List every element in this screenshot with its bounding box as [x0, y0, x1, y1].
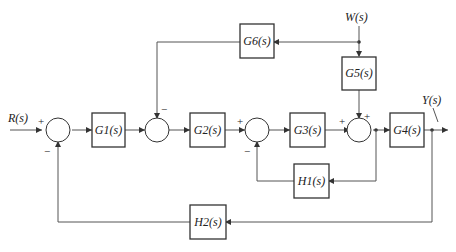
block-diagram: G1(s) G2(s) G3(s) G4(s) G5(s) G6(s) H1(s… [0, 0, 456, 252]
disturbance-label: W(s) [345, 10, 368, 24]
block-g6: G6(s) [240, 24, 274, 58]
svg-text:G4(s): G4(s) [393, 123, 420, 137]
block-g3: G3(s) [290, 113, 325, 147]
sign: + [38, 115, 44, 127]
sign: − [161, 103, 167, 115]
summing-junction-2 [145, 118, 169, 142]
block-h1: H1(s) [294, 164, 329, 198]
block-h2: H2(s) [190, 205, 226, 239]
output-label: Y(s) [422, 93, 441, 107]
svg-text:G1(s): G1(s) [95, 123, 122, 137]
input-label: R(s) [7, 111, 28, 125]
svg-text:H2(s): H2(s) [193, 215, 221, 229]
svg-text:G3(s): G3(s) [294, 123, 321, 137]
sign: + [237, 115, 243, 127]
block-g2: G2(s) [190, 113, 225, 147]
svg-text:G6(s): G6(s) [243, 34, 270, 48]
block-g5: G5(s) [342, 57, 376, 90]
svg-text:G5(s): G5(s) [345, 66, 372, 80]
sign: + [339, 115, 345, 127]
sign: − [44, 145, 50, 157]
sign: − [244, 145, 250, 157]
svg-text:G2(s): G2(s) [194, 123, 221, 137]
sign: + [364, 110, 370, 122]
svg-text:H1(s): H1(s) [297, 174, 325, 188]
block-g1: G1(s) [92, 113, 125, 147]
summing-junction-1 [46, 118, 70, 142]
summing-junction-3 [245, 118, 269, 142]
block-g4: G4(s) [390, 113, 424, 147]
